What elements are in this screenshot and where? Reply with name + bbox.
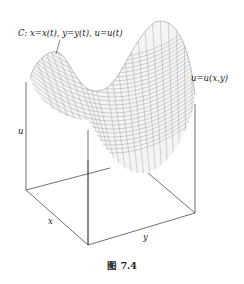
surface-label: u=u(x,y) [191, 73, 228, 83]
axis-y-label: y [143, 232, 148, 242]
axis-x-label: x [48, 216, 53, 226]
axis-u-label: u [18, 126, 23, 136]
saddle-surface-diagram [0, 0, 244, 284]
figure-caption: 图 7.4 [0, 258, 244, 272]
curve-label: C: x=x(t), y=y(t), u=u(t) [18, 28, 123, 38]
